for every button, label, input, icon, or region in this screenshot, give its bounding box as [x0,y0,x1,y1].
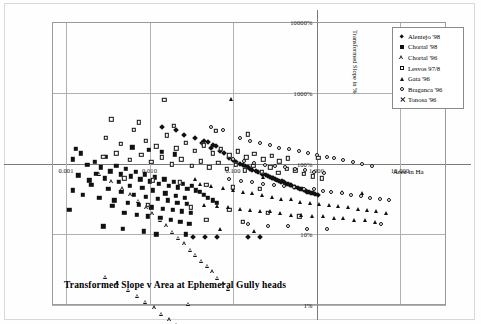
legend-marker-cross-icon [397,95,407,105]
y-tick-label: 1% [304,302,313,309]
legend-item: Lesvos 97/8 [397,63,460,74]
y-tick-label: 100% [297,160,313,167]
x-axis-title: Area in Ha [393,168,424,176]
legend-item-label: Alentejo '98 [407,33,440,40]
legend-item-label: Lesvos 97/8 [407,65,440,72]
legend-item: Tonosa '96 [397,95,460,106]
legend-item: Alentejo '98 [397,31,460,42]
legend-marker-open-circle-icon [397,84,407,94]
legend-marker-open-triangle-icon [397,52,407,62]
legend-marker-filled-triangle-icon [397,74,407,84]
plot-area [52,22,446,305]
legend-item-label: Chortal '96 [407,54,437,61]
x-tick-label: 0.010 [142,167,157,174]
legend-item-label: Braganca '96 [407,86,442,93]
legend-item: Chortal '96 [397,52,460,63]
legend-item-label: Gata '96 [407,75,430,82]
legend-marker-open-square-icon [397,63,407,73]
y-tick-label: 1000% [294,89,313,96]
x-tick-label: 0.001 [58,167,73,174]
y-tick-label: 10000% [290,19,312,26]
x-tick-label: 0.100 [225,167,240,174]
legend: Alentejo '98Chortal '98Chortal '96Lesvos… [392,27,464,109]
legend-marker-filled-diamond-icon [397,31,407,41]
legend-item-label: Chortal '98 [407,43,437,50]
y-tick-label: 10% [300,231,312,238]
legend-item: Braganca '96 [397,84,460,95]
legend-marker-filled-square-icon [397,42,407,52]
chart-screenshot: 0.0010.0100.1001.00010.000 10000%1000%10… [0,0,481,324]
legend-item: Gata '96 [397,73,460,84]
gridline-horizontal [52,305,446,306]
y-axis-title: Transformed Slope in % [349,30,361,142]
x-tick-label: 1.000 [309,167,324,174]
legend-item-label: Tonosa '96 [407,96,436,103]
legend-item: Chortal '98 [397,42,460,53]
chart-title: Transformed Slope v Area at Ephemeral Gu… [64,280,286,290]
